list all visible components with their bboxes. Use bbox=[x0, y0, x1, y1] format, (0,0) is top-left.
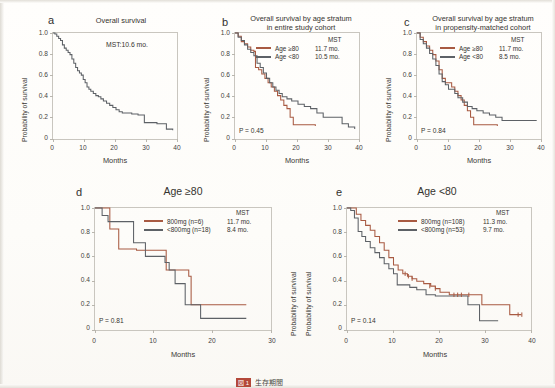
panel-a-xtick-2: 20 bbox=[106, 144, 122, 151]
panel-d-xtick-3: 30 bbox=[264, 337, 280, 344]
legend-mst-value: 11.7 mo. bbox=[315, 45, 349, 52]
panel-c-label: c bbox=[404, 16, 410, 28]
panel-b-ytick-0: 1.0 bbox=[206, 29, 230, 36]
panel-c: c Overall survival by age stratum in pro… bbox=[378, 14, 550, 174]
y-tick-mark bbox=[344, 330, 347, 331]
panel-b-label: b bbox=[222, 16, 228, 28]
panel-a-xtick-0: 0 bbox=[44, 144, 60, 151]
panel-a-ytick-3: 0.4 bbox=[24, 92, 48, 99]
y-tick-mark bbox=[232, 54, 235, 55]
x-tick-mark bbox=[115, 139, 116, 142]
panel-b-legend-header: MST bbox=[328, 36, 342, 43]
panel-d-ytick-2: 0.6 bbox=[62, 252, 90, 259]
panel-c-ytick-5: 0 bbox=[388, 134, 412, 141]
panel-d-ytick-4: 0.2 bbox=[62, 300, 90, 307]
x-tick-mark bbox=[448, 139, 449, 142]
legend-swatch-icon bbox=[440, 56, 455, 58]
panel-b-ytick-2: 0.6 bbox=[206, 71, 230, 78]
x-tick-mark bbox=[84, 139, 85, 142]
panel-d-ytick-1: 0.8 bbox=[62, 228, 90, 235]
y-tick-mark bbox=[50, 117, 53, 118]
panel-c-legend: Age ≥80 11.7 mo. Age <80 8.5 mo. bbox=[440, 44, 531, 61]
y-tick-mark bbox=[92, 208, 95, 209]
panel-b-xtick-2: 20 bbox=[288, 144, 304, 151]
panel-e-xtick-2: 20 bbox=[431, 337, 447, 344]
panel-a-y-axis-label: Probability of survival bbox=[21, 78, 28, 142]
y-tick-mark bbox=[344, 256, 347, 257]
legend-label: 800mg (n=6) bbox=[167, 218, 227, 225]
panel-e-xtick-4: 40 bbox=[524, 337, 540, 344]
panel-a-plot bbox=[53, 33, 179, 141]
panel-e-xtick-3: 30 bbox=[477, 337, 493, 344]
panel-b-ytick-5: 0 bbox=[206, 134, 230, 141]
panel-c-ytick-4: 0.2 bbox=[388, 113, 412, 120]
panel-e-ytick-0: 1.0 bbox=[314, 204, 342, 211]
x-tick-mark bbox=[479, 139, 480, 142]
panel-d-x-axis-label: Months bbox=[140, 350, 226, 359]
legend-swatch-icon bbox=[440, 47, 455, 49]
panel-c-pvalue: P = 0.84 bbox=[421, 127, 446, 134]
legend-mst-value: 8.4 mo. bbox=[227, 226, 259, 233]
x-tick-mark bbox=[153, 330, 154, 333]
panel-c-ytick-3: 0.4 bbox=[388, 92, 412, 99]
legend-item: Age <80 8.5 mo. bbox=[440, 53, 531, 62]
figure-caption-tag: 図 1 bbox=[236, 378, 251, 387]
figure-caption-text: 生存期間 bbox=[255, 379, 283, 386]
scan-edge-left bbox=[0, 0, 4, 388]
legend-mst-value: 10.5 mo. bbox=[315, 53, 349, 60]
panel-d-pvalue: P = 0.81 bbox=[99, 317, 124, 324]
panel-b: b Overall survival by age stratum in ent… bbox=[196, 14, 368, 174]
panel-a-label: a bbox=[48, 14, 54, 26]
y-tick-mark bbox=[414, 139, 417, 140]
legend-mst-value: 11.7 mo. bbox=[499, 45, 531, 52]
x-tick-mark bbox=[439, 330, 440, 333]
y-tick-mark bbox=[344, 281, 347, 282]
legend-label: Age ≥80 bbox=[275, 45, 315, 52]
panel-c-xtick-0: 0 bbox=[408, 144, 424, 151]
panel-e-legend-header: MST bbox=[496, 209, 510, 216]
x-tick-mark bbox=[328, 139, 329, 142]
panel-e-ytick-3: 0.4 bbox=[314, 276, 342, 283]
panel-b-x-axis-label: Months bbox=[254, 156, 340, 165]
panel-b-legend: Age ≥80 11.7 mo. Age <80 10.5 mo. bbox=[256, 44, 349, 61]
panel-a: a Overall survival Probability of surviv… bbox=[14, 14, 186, 174]
panel-c-xtick-1: 10 bbox=[439, 144, 455, 151]
panel-e-ytick-2: 0.6 bbox=[314, 252, 342, 259]
panel-b-xtick-0: 0 bbox=[226, 144, 242, 151]
panel-c-ytick-2: 0.6 bbox=[388, 71, 412, 78]
panel-e-pvalue: P = 0.14 bbox=[351, 317, 376, 324]
panel-d-xtick-0: 0 bbox=[86, 337, 102, 344]
panel-a-mst-annotation: MST:10.6 mo. bbox=[106, 41, 148, 48]
panel-d-legend: 800mg (n=6) 11.7 mo. <800mg (n=18) 8.4 m… bbox=[144, 217, 259, 234]
legend-swatch-icon bbox=[256, 47, 271, 49]
panel-b-xtick-4: 40 bbox=[351, 144, 367, 151]
panel-a-ytick-4: 0.2 bbox=[24, 113, 48, 120]
panel-b-title-line2: in entire study cohort bbox=[236, 23, 366, 32]
legend-label: Age <80 bbox=[275, 53, 315, 60]
panel-d-xtick-1: 10 bbox=[145, 337, 161, 344]
panel-d-legend-header: MST bbox=[236, 209, 250, 216]
legend-label: <800mg (n=53) bbox=[421, 226, 483, 233]
panel-a-ytick-1: 0.8 bbox=[24, 50, 48, 57]
x-tick-mark bbox=[271, 330, 272, 333]
panel-a-ytick-0: 1.0 bbox=[24, 29, 48, 36]
y-tick-mark bbox=[92, 232, 95, 233]
panel-e-ytick-5: 0 bbox=[314, 324, 342, 331]
panel-e-censor-marks bbox=[405, 272, 522, 317]
x-tick-mark bbox=[393, 330, 394, 333]
panel-d-xtick-2: 20 bbox=[204, 337, 220, 344]
legend-mst-value: 11.7 mo. bbox=[227, 218, 259, 225]
panel-c-xtick-4: 40 bbox=[533, 144, 549, 151]
legend-mst-value: 9.7 mo. bbox=[483, 226, 515, 233]
y-tick-mark bbox=[232, 75, 235, 76]
x-tick-mark bbox=[359, 139, 360, 142]
x-tick-mark bbox=[146, 139, 147, 142]
panel-e-label: e bbox=[336, 186, 342, 198]
panel-b-ytick-4: 0.2 bbox=[206, 113, 230, 120]
panel-b-title-line1: Overall survival by age stratum bbox=[236, 14, 366, 23]
y-tick-mark bbox=[344, 208, 347, 209]
panel-c-ytick-0: 1.0 bbox=[388, 29, 412, 36]
panel-e-title: Age <80 bbox=[362, 187, 512, 196]
panel-e-ytick-1: 0.8 bbox=[314, 228, 342, 235]
panel-d-y-axis-label: Probability of survival bbox=[290, 272, 297, 336]
